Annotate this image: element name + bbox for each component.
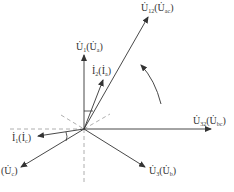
reference-axes-dashed	[10, 114, 110, 182]
label-uc-alt: U̇	[4, 165, 11, 176]
label-u32: U̇32(U̇bc)	[193, 116, 226, 129]
phasor-i1	[38, 129, 84, 136]
label-u1: U̇1(U̇a)	[76, 42, 103, 55]
label-u12-sub: 12	[148, 8, 154, 14]
label-i1-sub: 1	[15, 138, 18, 144]
label-i2-alt-sub: a	[105, 71, 108, 77]
label-u12-alt-sub: ac	[165, 8, 170, 14]
label-u32-alt: U̇	[210, 115, 217, 126]
phasor-u3	[84, 129, 145, 167]
rotation-direction-arrow-icon	[141, 65, 161, 104]
label-u3-sub: 3	[156, 171, 159, 177]
label-u12-alt: U̇	[158, 2, 165, 13]
label-u3: U̇3(U̇b)	[149, 166, 176, 179]
label-u1-alt: U̇	[90, 41, 97, 52]
label-u12: U̇12(U̇ac)	[141, 3, 173, 16]
label-u3-alt-sub: b	[170, 171, 173, 177]
label-uc: (U̇c)	[1, 166, 18, 179]
label-u32-sub: 32	[200, 121, 206, 127]
label-i2-sub: 2	[95, 71, 98, 77]
phasor-i2	[84, 80, 103, 129]
label-u32-alt-sub: bc	[217, 121, 223, 127]
label-i2: İ2(İa)	[92, 66, 111, 79]
label-u3-alt: U̇	[163, 165, 170, 176]
label-uc-alt-sub: c	[12, 171, 15, 177]
label-u1-sub: 1	[83, 47, 86, 53]
label-i1: İ1(İc)	[12, 133, 31, 146]
phasor-diagram: U̇12(U̇ac) U̇1(U̇a) İ2(İa) U̇32(U̇bc) …	[0, 0, 234, 192]
label-u1-alt-sub: a	[97, 47, 100, 53]
label-i1-alt-sub: c	[25, 138, 28, 144]
phasor-diagram-svg	[0, 0, 234, 192]
